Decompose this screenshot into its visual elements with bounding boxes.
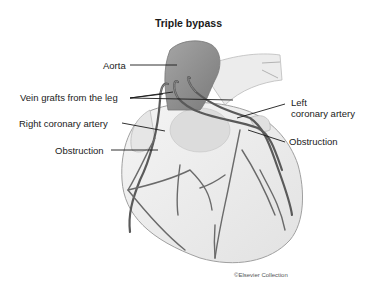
- label-obstruction-right: Obstruction: [289, 136, 338, 147]
- label-left-coronary-line1: Left: [291, 97, 307, 108]
- label-vein-grafts: Vein grafts from the leg: [20, 92, 118, 103]
- credit-text: ©Elsevier Collection: [234, 272, 288, 278]
- label-obstruction-left: Obstruction: [55, 145, 104, 156]
- diagram-title: Triple bypass: [0, 17, 377, 29]
- label-aorta: Aorta: [103, 60, 126, 71]
- label-left-coronary-line2: coronary artery: [291, 108, 355, 119]
- label-right-coronary: Right coronary artery: [19, 118, 108, 129]
